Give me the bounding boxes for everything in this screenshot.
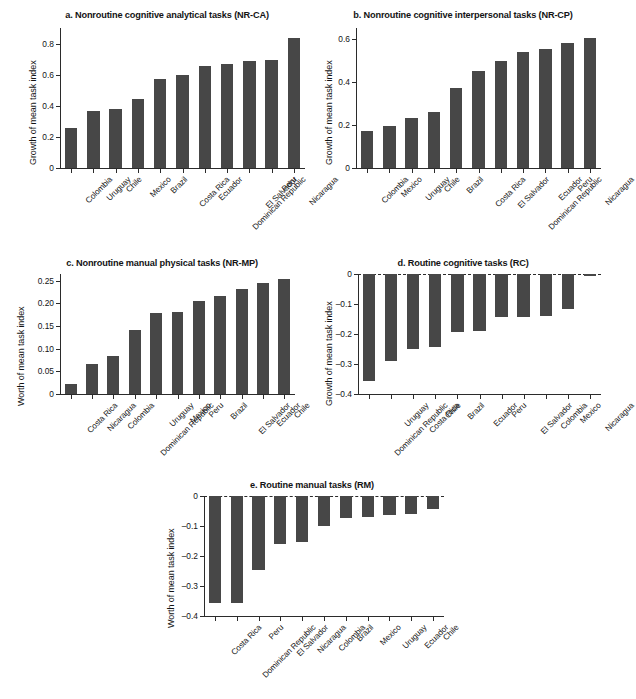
- chart-panel-d: d. Routine cognitive tasks (RC) Growth o…: [318, 258, 608, 458]
- bar: [87, 111, 99, 168]
- panel-c-x-tick: [71, 395, 72, 399]
- panel-b-title: b. Nonroutine cognitive interpersonal ta…: [318, 10, 608, 20]
- panel-c-y-tick: [56, 394, 60, 395]
- panel-d-y-tick-label: –0.4: [316, 389, 352, 399]
- bar: [318, 496, 330, 526]
- bar: [265, 60, 277, 168]
- panel-e-y-tick-label: 0: [162, 491, 198, 501]
- panel-d-x-tick: [546, 395, 547, 399]
- panel-e-y-tick: [200, 496, 204, 497]
- chart-panel-a: a. Nonroutine cognitive analytical tasks…: [22, 10, 312, 220]
- panel-b-y-tick: [352, 168, 356, 169]
- panel-e-y-axis: [204, 496, 205, 616]
- panel-d-title: d. Routine cognitive tasks (RC): [318, 258, 608, 268]
- panel-e-x-tick: [259, 617, 260, 621]
- panel-d-x-tick: [502, 395, 503, 399]
- panel-c-x-tick: [135, 395, 136, 399]
- bar: [407, 274, 419, 349]
- panel-a-x-tick: [116, 169, 117, 173]
- bar: [539, 49, 551, 168]
- bar: [231, 496, 243, 603]
- panel-b-plot-area: 00.20.40.6ColombiaMexicoUruguayChileBraz…: [356, 28, 601, 168]
- panel-c-y-tick: [56, 371, 60, 372]
- bar: [172, 312, 184, 394]
- bar: [132, 99, 144, 168]
- bar: [176, 75, 188, 168]
- x-axis-category-label: Nicaragua: [604, 401, 636, 433]
- panel-b-x-tick: [545, 169, 546, 173]
- bar: [562, 274, 574, 309]
- panel-e-x-tick: [215, 617, 216, 621]
- bar: [257, 283, 269, 394]
- panel-c-x-tick: [263, 395, 264, 399]
- panel-a-x-tick: [183, 169, 184, 173]
- x-axis-category-label: Brazil: [466, 401, 486, 421]
- panel-b-x-tick: [590, 169, 591, 173]
- panel-e-y-tick-label: –0.2: [162, 551, 198, 561]
- x-axis-category-label: Brazil: [465, 175, 485, 195]
- bar: [429, 274, 441, 347]
- panel-c-x-tick: [220, 395, 221, 399]
- bar: [340, 496, 352, 518]
- panel-a-x-tick: [272, 169, 273, 173]
- panel-c-x-tick: [178, 395, 179, 399]
- bar: [363, 274, 375, 381]
- panel-b-y-tick-label: 0: [314, 163, 350, 173]
- panel-c-y-tick-label: 0.20: [18, 298, 54, 308]
- panel-a-title: a. Nonroutine cognitive analytical tasks…: [22, 10, 312, 20]
- bar: [495, 61, 507, 168]
- bar: [405, 118, 417, 168]
- bar: [517, 52, 529, 168]
- panel-b-x-tick: [479, 169, 480, 173]
- panel-e-y-tick-label: –0.1: [162, 521, 198, 531]
- bar: [129, 330, 141, 394]
- panel-a-y-axis: [60, 28, 61, 168]
- panel-e-y-tick: [200, 616, 204, 617]
- panel-e-x-tick: [389, 617, 390, 621]
- bar: [427, 496, 439, 509]
- bar: [209, 496, 221, 603]
- panel-b-x-tick: [568, 169, 569, 173]
- bar: [296, 496, 308, 542]
- panel-c-y-tick: [56, 326, 60, 327]
- panel-d-x-tick: [435, 395, 436, 399]
- bar: [362, 496, 374, 517]
- panel-e-x-tick: [237, 617, 238, 621]
- panel-d-x-tick: [369, 395, 370, 399]
- panel-c-y-tick: [56, 303, 60, 304]
- panel-e-y-tick: [200, 526, 204, 527]
- bar: [584, 38, 596, 168]
- panel-c-y-tick-label: 0: [18, 389, 54, 399]
- bar: [450, 88, 462, 168]
- bar: [405, 496, 417, 514]
- panel-d-y-axis: [358, 274, 359, 394]
- panel-b-y-tick: [352, 82, 356, 83]
- panel-c-y-tick-label: 0.05: [18, 366, 54, 376]
- panel-e-x-tick: [302, 617, 303, 621]
- panel-d-y-tick: [354, 394, 358, 395]
- panel-d-y-tick-label: –0.3: [316, 359, 352, 369]
- bar: [243, 61, 255, 168]
- panel-c-y-tick-label: 0.10: [18, 344, 54, 354]
- panel-b-x-tick: [434, 169, 435, 173]
- panel-e-x-tick: [433, 617, 434, 621]
- chart-panel-b: b. Nonroutine cognitive interpersonal ta…: [318, 10, 608, 220]
- panel-b-x-tick: [456, 169, 457, 173]
- panel-d-y-tick: [354, 334, 358, 335]
- chart-panel-c: c. Nonroutine manual physical tasks (NR-…: [12, 258, 312, 458]
- bar: [236, 289, 248, 394]
- panel-a-x-tick: [227, 169, 228, 173]
- bar: [385, 274, 397, 361]
- panel-c-y-axis: [60, 274, 61, 394]
- bar: [150, 313, 162, 394]
- panel-e-x-tick: [368, 617, 369, 621]
- panel-a-x-tick: [205, 169, 206, 173]
- panel-c-x-tick: [113, 395, 114, 399]
- panel-e-x-tick: [280, 617, 281, 621]
- panel-d-x-tick: [457, 395, 458, 399]
- panel-c-plot-area: 00.050.100.150.200.25Costa RicaNicaragua…: [60, 274, 295, 394]
- panel-a-y-tick: [56, 168, 60, 169]
- bar: [288, 38, 300, 168]
- panel-a-y-tick: [56, 75, 60, 76]
